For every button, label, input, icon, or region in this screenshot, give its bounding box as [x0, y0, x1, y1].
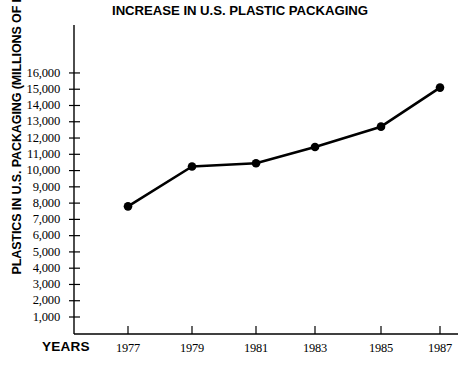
- y-tick-label: 5,000: [4, 246, 60, 259]
- y-tick-label: 3,000: [4, 278, 60, 291]
- y-tick-label: 9,000: [4, 181, 60, 194]
- y-tick-label: 2,000: [4, 294, 60, 307]
- y-tick-label: 4,000: [4, 262, 60, 275]
- data-point-1983: [311, 143, 320, 152]
- chart-container: PLASTICS IN U.S. PACKAGING (MILLIONS OF …: [0, 0, 458, 366]
- x-tick-label: 1985: [351, 342, 411, 354]
- y-tick-label: 13,000: [4, 115, 60, 128]
- x-tick-label: 1981: [226, 342, 286, 354]
- y-tick-label: 15,000: [4, 83, 60, 96]
- x-axis-ticks: [128, 326, 440, 334]
- y-tick-label: 8,000: [4, 197, 60, 210]
- data-point-markers: [124, 83, 445, 210]
- data-point-1981: [252, 159, 261, 168]
- y-tick-label: 7,000: [4, 213, 60, 226]
- plot-area: [0, 0, 458, 366]
- y-tick-label: 12,000: [4, 132, 60, 145]
- x-tick-label: 1983: [285, 342, 345, 354]
- y-tick-label: 10,000: [4, 164, 60, 177]
- data-point-1985: [377, 122, 386, 131]
- x-tick-label: 1987: [410, 342, 458, 354]
- x-tick-label: 1979: [162, 342, 222, 354]
- data-point-1977: [124, 202, 133, 211]
- axis-lines: [74, 25, 458, 334]
- y-tick-label: 14,000: [4, 99, 60, 112]
- y-tick-label: 1,000: [4, 311, 60, 324]
- data-line-series: [128, 88, 440, 207]
- y-tick-label: 11,000: [4, 148, 60, 161]
- data-point-1979: [188, 162, 197, 171]
- data-point-1987: [436, 83, 445, 92]
- x-tick-label: 1977: [98, 342, 158, 354]
- y-tick-label: 16,000: [4, 67, 60, 80]
- x-axis-title: YEARS: [42, 339, 90, 354]
- y-tick-label: 6,000: [4, 229, 60, 242]
